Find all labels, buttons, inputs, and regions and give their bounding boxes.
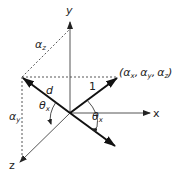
x-axis-label: x: [153, 107, 160, 120]
theta-x-left-label: θx: [39, 99, 51, 113]
alpha-z-dashed-line: [22, 29, 70, 77]
alpha-y-label: αy: [9, 110, 21, 124]
z-axis-label: z: [9, 159, 15, 172]
z-axis: [20, 113, 70, 162]
d-vector-label: d: [46, 84, 54, 97]
unit-length-label: 1: [89, 80, 96, 93]
alpha-z-label: αz: [35, 38, 46, 52]
theta-left-arc: [50, 102, 56, 124]
theta-x-right-label: θx: [92, 110, 104, 124]
coordinate-vector-diagram: y x z 1 d αz αy (αx,αy,αz) θx θx: [0, 0, 180, 175]
point-coordinates-label: (αx,αy,αz): [119, 66, 172, 80]
y-axis-label: y: [65, 4, 73, 17]
